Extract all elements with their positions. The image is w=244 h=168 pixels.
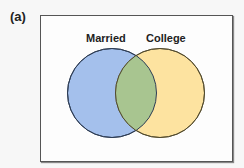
set-label-married: Married (86, 32, 126, 44)
venn-diagram (0, 0, 244, 168)
set-label-college: College (146, 32, 186, 44)
